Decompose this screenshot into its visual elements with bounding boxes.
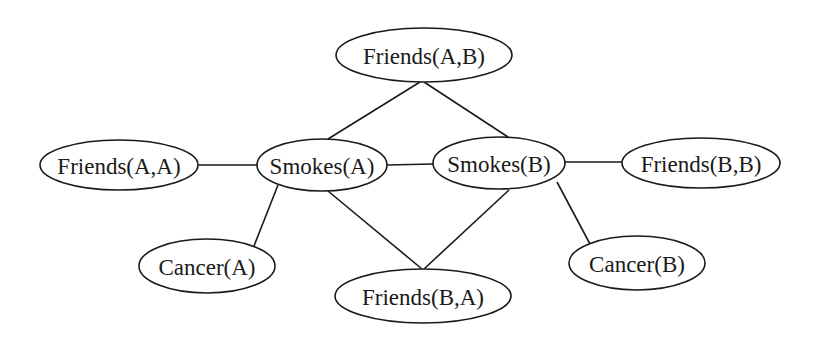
edge-smokes-a-to-cancer-a <box>254 185 278 246</box>
node-label: Friends(B,A) <box>362 285 484 310</box>
node-label: Smokes(A) <box>270 154 375 179</box>
node-label: Smokes(B) <box>447 152 551 177</box>
node-label: Friends(A,B) <box>363 44 485 69</box>
node-label: Cancer(A) <box>158 255 255 280</box>
edge-friends-ab-to-smokes-b <box>424 82 508 137</box>
node-friends-ab: Friends(A,B) <box>336 28 512 82</box>
node-label: Friends(B,B) <box>641 152 762 177</box>
node-cancer-a: Cancer(A) <box>139 239 275 293</box>
nodes-layer: Friends(A,B)Friends(A,A)Smokes(A)Smokes(… <box>40 28 780 323</box>
edge-smokes-a-to-smokes-b <box>387 164 433 165</box>
edge-smokes-a-to-friends-ba <box>328 191 422 269</box>
node-friends-bb: Friends(B,B) <box>622 138 780 188</box>
node-cancer-b: Cancer(B) <box>569 236 705 290</box>
edge-smokes-b-to-friends-ba <box>424 190 509 269</box>
node-smokes-b: Smokes(B) <box>433 137 565 189</box>
node-label: Friends(A,A) <box>57 154 180 179</box>
edge-smokes-b-to-cancer-b <box>557 182 590 244</box>
node-friends-ba: Friends(B,A) <box>335 269 511 323</box>
node-smokes-a: Smokes(A) <box>257 139 387 191</box>
edge-friends-ab-to-smokes-a <box>328 82 420 139</box>
node-label: Cancer(B) <box>589 252 685 277</box>
markov-network-diagram: Friends(A,B)Friends(A,A)Smokes(A)Smokes(… <box>0 0 816 340</box>
node-friends-aa: Friends(A,A) <box>40 140 198 190</box>
